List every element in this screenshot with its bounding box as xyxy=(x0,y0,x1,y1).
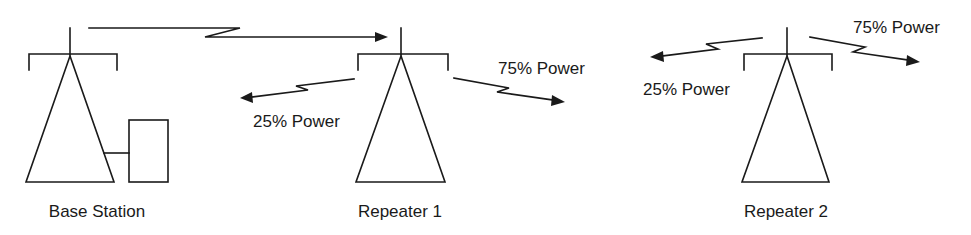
repeater2-left-power-label: 25% Power xyxy=(643,80,730,99)
repeater1-right-signal: 75% Power xyxy=(454,59,585,106)
repeater2-tower: Repeater 2 xyxy=(742,28,832,221)
arrowhead-icon xyxy=(551,95,565,106)
repeater1-label: Repeater 1 xyxy=(358,202,442,221)
arrowhead-icon xyxy=(906,55,920,66)
arrowhead-icon xyxy=(375,32,388,42)
repeater1-right-power-label: 75% Power xyxy=(498,59,585,78)
repeater2-label: Repeater 2 xyxy=(744,202,828,221)
repeater2-right-signal: 75% Power xyxy=(810,18,940,66)
base-station-equipment-box xyxy=(129,120,168,182)
base-station-label: Base Station xyxy=(49,202,145,221)
repeater1-left-signal: 25% Power xyxy=(240,79,354,131)
arrowhead-icon xyxy=(650,51,664,62)
repeater2-right-power-label: 75% Power xyxy=(853,18,940,37)
repeater-diagram: Base Station Repeater 1 25% Power 75% Po… xyxy=(0,0,971,235)
link-base-to-repeater1 xyxy=(89,28,388,42)
repeater1-tower: Repeater 1 xyxy=(356,28,448,221)
repeater1-left-power-label: 25% Power xyxy=(253,112,340,131)
base-station-tower: Base Station xyxy=(26,28,168,221)
arrowhead-icon xyxy=(240,92,253,103)
